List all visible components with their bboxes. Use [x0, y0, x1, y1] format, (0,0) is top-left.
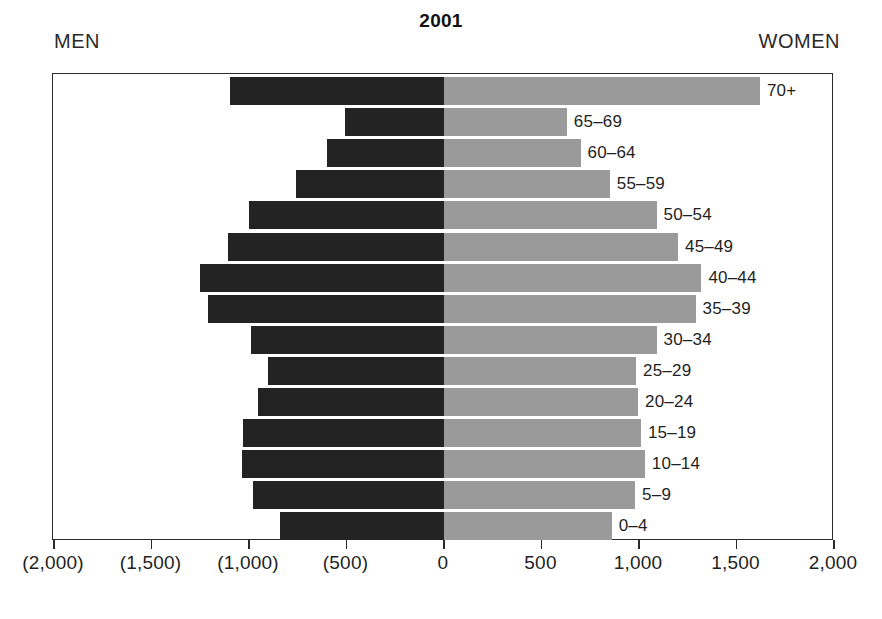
- age-group-label: 25–29: [643, 360, 691, 380]
- x-axis-tick: [541, 540, 543, 549]
- bar-men: [296, 170, 444, 198]
- bar-row: 40–44: [53, 264, 832, 292]
- men-group-label: MEN: [54, 30, 100, 53]
- age-group-label: 45–49: [685, 236, 733, 256]
- x-axis-tick: [833, 540, 835, 549]
- bar-women: [444, 233, 678, 261]
- x-axis-tick-label: 1,000: [614, 552, 663, 574]
- age-group-label: 30–34: [664, 329, 712, 349]
- age-group-label: 20–24: [645, 392, 693, 412]
- bar-row: 10–14: [53, 450, 832, 478]
- age-group-label: 0–4: [619, 516, 648, 536]
- age-group-label: 5–9: [642, 485, 671, 505]
- bar-men: [249, 201, 444, 229]
- x-axis-tick: [638, 540, 640, 549]
- bar-men: [280, 512, 444, 540]
- bar-women: [444, 139, 581, 167]
- bar-women: [444, 201, 657, 229]
- age-group-label: 50–54: [664, 205, 712, 225]
- women-group-label: WOMEN: [759, 30, 840, 53]
- bar-men: [228, 233, 444, 261]
- x-axis-tick: [151, 540, 153, 549]
- x-axis-tick-label: 2,000: [809, 552, 858, 574]
- bar-men: [258, 388, 444, 416]
- bar-women: [444, 357, 636, 385]
- bars-container: 70+65–6960–6455–5950–5445–4940–4435–3930…: [53, 74, 832, 539]
- bar-women: [444, 326, 657, 354]
- bar-row: 0–4: [53, 512, 832, 540]
- x-axis-tick-label: (1,500): [120, 552, 182, 574]
- age-group-label: 15–19: [648, 423, 696, 443]
- bar-men: [251, 326, 444, 354]
- bar-row: 30–34: [53, 326, 832, 354]
- bar-row: 5–9: [53, 481, 832, 509]
- bar-row: 45–49: [53, 233, 832, 261]
- bar-women: [444, 77, 760, 105]
- bar-women: [444, 295, 696, 323]
- age-group-label: 65–69: [574, 112, 622, 132]
- bar-men: [253, 481, 444, 509]
- bar-row: 20–24: [53, 388, 832, 416]
- age-group-label: 10–14: [652, 454, 700, 474]
- age-group-label: 60–64: [588, 143, 636, 163]
- bar-men: [268, 357, 444, 385]
- chart-title: 2001: [0, 10, 882, 32]
- x-axis-tick-label: (1,000): [217, 552, 279, 574]
- bar-men: [230, 77, 445, 105]
- age-group-label: 70+: [767, 81, 796, 101]
- bar-men: [327, 139, 444, 167]
- bar-women: [444, 108, 567, 136]
- bar-row: 60–64: [53, 139, 832, 167]
- x-axis-tick: [53, 540, 55, 549]
- bar-row: 15–19: [53, 419, 832, 447]
- x-axis-tick: [346, 540, 348, 549]
- bar-women: [444, 264, 701, 292]
- age-group-label: 35–39: [703, 298, 751, 318]
- bar-women: [444, 481, 635, 509]
- bar-row: 55–59: [53, 170, 832, 198]
- bar-row: 25–29: [53, 357, 832, 385]
- bar-women: [444, 450, 645, 478]
- x-axis-tick-label: 1,500: [711, 552, 760, 574]
- bar-row: 70+: [53, 77, 832, 105]
- x-axis-tick-label: (500): [323, 552, 368, 574]
- bar-men: [345, 108, 444, 136]
- x-axis-tick: [736, 540, 738, 549]
- age-group-label: 55–59: [617, 174, 665, 194]
- bar-row: 35–39: [53, 295, 832, 323]
- age-group-label: 40–44: [708, 267, 756, 287]
- x-axis-tick: [443, 540, 445, 549]
- bar-men: [208, 295, 444, 323]
- bar-men: [242, 450, 444, 478]
- bar-men: [243, 419, 444, 447]
- bar-row: 65–69: [53, 108, 832, 136]
- plot-frame: 70+65–6960–6455–5950–5445–4940–4435–3930…: [52, 73, 833, 540]
- bar-women: [444, 170, 610, 198]
- x-axis-tick-label: 500: [524, 552, 556, 574]
- x-axis-tick: [248, 540, 250, 549]
- x-axis-tick-label: (2,000): [22, 552, 84, 574]
- bar-women: [444, 388, 638, 416]
- bar-women: [444, 419, 641, 447]
- bar-men: [200, 264, 444, 292]
- bar-women: [444, 512, 612, 540]
- x-axis-tick-label: 0: [438, 552, 449, 574]
- bar-row: 50–54: [53, 201, 832, 229]
